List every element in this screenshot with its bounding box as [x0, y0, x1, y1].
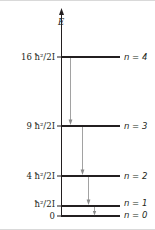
energy-label: ħ²/2I — [34, 199, 55, 209]
arrow-down-icon — [69, 120, 73, 126]
transition-3-2 — [81, 127, 85, 175]
quantum-number-label: n = 2 — [124, 171, 147, 181]
level-n1: ħ²/2I n = 1 — [34, 198, 147, 209]
arrow-down-icon — [81, 170, 85, 176]
axis-label: E — [57, 17, 65, 27]
quantum-number-label: n = 4 — [124, 52, 147, 62]
transition-2-1 — [87, 177, 91, 205]
quantum-number-label: n = 3 — [124, 121, 147, 131]
arrow-down-icon — [93, 211, 96, 216]
level-n2: 4 ħ²/2I n = 2 — [26, 171, 147, 181]
transition-1-0 — [93, 207, 96, 216]
transition-4-3 — [69, 58, 73, 125]
level-n0: 0 n = 0 — [50, 210, 148, 221]
energy-label: 0 — [50, 211, 55, 221]
energy-label: 4 ħ²/2I — [26, 171, 55, 181]
energy-label: 9 ħ²/2I — [26, 121, 55, 131]
level-n4: 16 ħ²/2I n = 4 — [21, 52, 147, 62]
arrow-down-icon — [87, 200, 91, 206]
energy-label: 16 ħ²/2I — [21, 52, 55, 62]
energy-axis: E — [57, 8, 65, 217]
axis-arrow-icon — [59, 8, 64, 15]
quantum-number-label: n = 1 — [124, 198, 147, 208]
quantum-number-label: n = 0 — [124, 210, 147, 220]
level-n3: 9 ħ²/2I n = 3 — [26, 121, 147, 131]
energy-level-diagram: E 16 ħ²/2I n = 4 9 ħ²/2I n = 3 4 ħ²/2I n… — [0, 0, 155, 230]
